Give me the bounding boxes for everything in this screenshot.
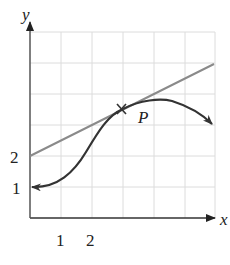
y-tick-2: 2 <box>10 148 19 167</box>
curve-right <box>123 100 212 124</box>
y-axis-label: y <box>20 5 30 24</box>
graph: P y x 1 2 1 2 <box>0 0 230 265</box>
x-tick-2: 2 <box>86 231 95 250</box>
y-tick-1: 1 <box>12 179 21 198</box>
x-tick-1: 1 <box>56 231 65 250</box>
point-p-label: P <box>137 108 148 127</box>
grid <box>30 32 215 218</box>
x-axis-label: x <box>219 210 228 229</box>
